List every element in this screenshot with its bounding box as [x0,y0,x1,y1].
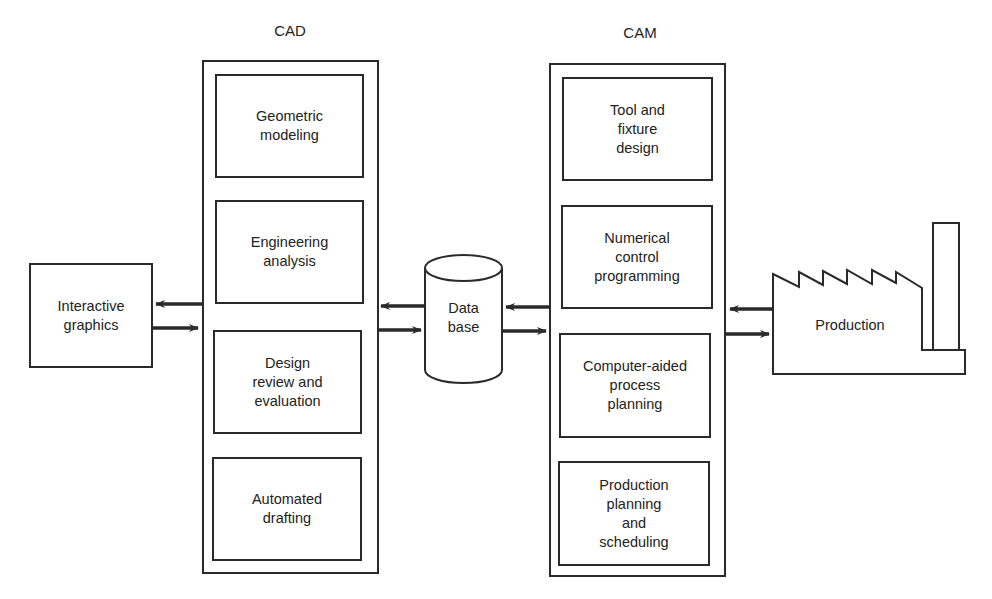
cad-item-label: Automated drafting [252,490,322,528]
cad-item-design-review: Design review and evaluation [213,330,362,434]
cam-item-label: Tool and fixture design [610,101,665,158]
cam-title: CAM [590,24,690,41]
cad-item-automated-drafting: Automated drafting [212,457,362,561]
production-label: Production [790,308,910,342]
database-text: Data base [448,299,479,337]
cam-item-label: Computer-aided process planning [583,357,687,414]
cad-item-geometric-modeling: Geometric modeling [215,74,364,178]
cam-item-capp: Computer-aided process planning [559,333,711,438]
cam-item-label: Production planning and scheduling [599,476,668,552]
cad-item-label: Geometric modeling [256,107,323,145]
cam-item-label: Numerical control programming [594,229,679,286]
cad-item-engineering-analysis: Engineering analysis [215,200,364,304]
cam-item-tool-fixture-design: Tool and fixture design [562,77,713,181]
cad-item-label: Engineering analysis [251,233,328,271]
factory-icon [773,223,965,374]
production-text: Production [815,316,884,335]
database-label: Data base [425,290,502,346]
cam-item-production-planning: Production planning and scheduling [558,461,710,566]
interactive-graphics-label: Interactive graphics [58,297,125,335]
cam-item-nc-programming: Numerical control programming [561,205,713,309]
interactive-graphics-box: Interactive graphics [29,263,153,368]
cad-title: CAD [240,22,340,39]
cad-item-label: Design review and evaluation [252,354,322,411]
